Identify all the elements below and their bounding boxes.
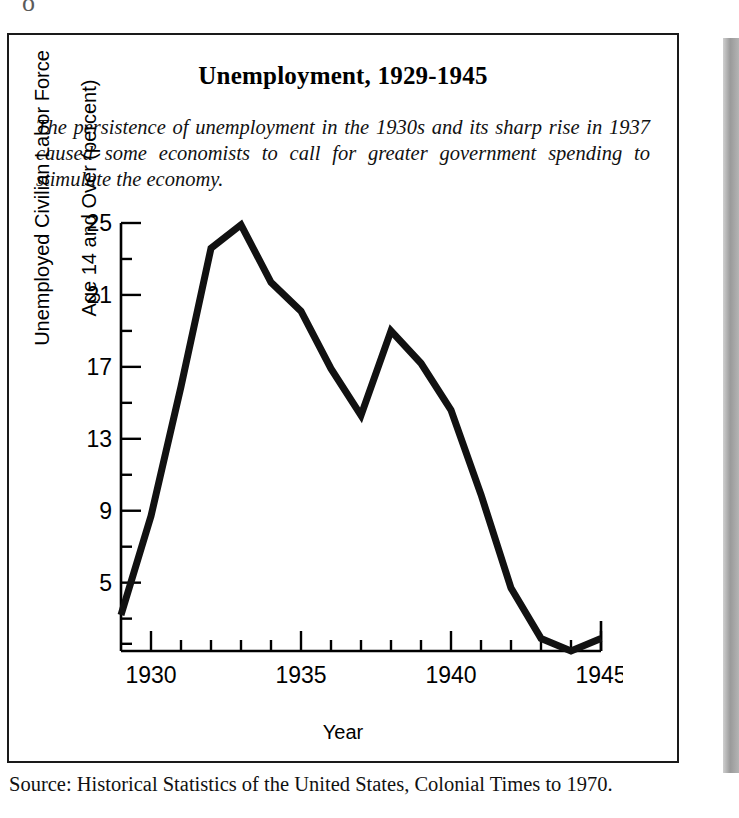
- chart-plot-area: Unemployed Civilian Labor Force Age 14 a…: [9, 213, 677, 753]
- y-axis-title-line1: Unemployed Civilian Labor Force: [31, 33, 55, 363]
- page-gutter-shadow: [723, 38, 739, 773]
- figure-source: Source: Historical Statistics of the Uni…: [9, 772, 669, 797]
- x-axis-title: Year: [9, 721, 677, 744]
- scan-artifact-glyph: o: [22, 0, 36, 18]
- figure-box: Unemployment, 1929-1945 The persistence …: [7, 33, 679, 763]
- y-tick-label: 5: [99, 570, 112, 596]
- unemployment-series-line: [121, 225, 601, 651]
- y-axis-title-line2: Age 14 and Over (percent): [78, 33, 102, 363]
- y-tick-label: 9: [99, 498, 112, 524]
- figure-caption: The persistence of unemployment in the 1…: [36, 114, 650, 193]
- x-tick-label: 1935: [275, 662, 326, 688]
- y-tick-label: 13: [86, 426, 112, 452]
- x-tick-label: 1940: [425, 662, 476, 688]
- x-tick-label: 1945: [575, 662, 623, 688]
- unemployment-line-chart: 59131721251930193519401945: [63, 213, 623, 713]
- y-axis-title: Unemployed Civilian Labor Force Age 14 a…: [7, 33, 125, 363]
- x-tick-label: 1930: [125, 662, 176, 688]
